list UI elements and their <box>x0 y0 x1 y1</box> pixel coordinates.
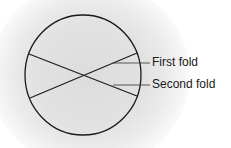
diagram: First fold Second fold <box>0 0 231 148</box>
second-fold-label: Second fold <box>152 77 215 91</box>
first-fold-label: First fold <box>152 55 198 69</box>
second-fold-line <box>30 53 137 98</box>
folded-circle-figure <box>0 0 231 148</box>
